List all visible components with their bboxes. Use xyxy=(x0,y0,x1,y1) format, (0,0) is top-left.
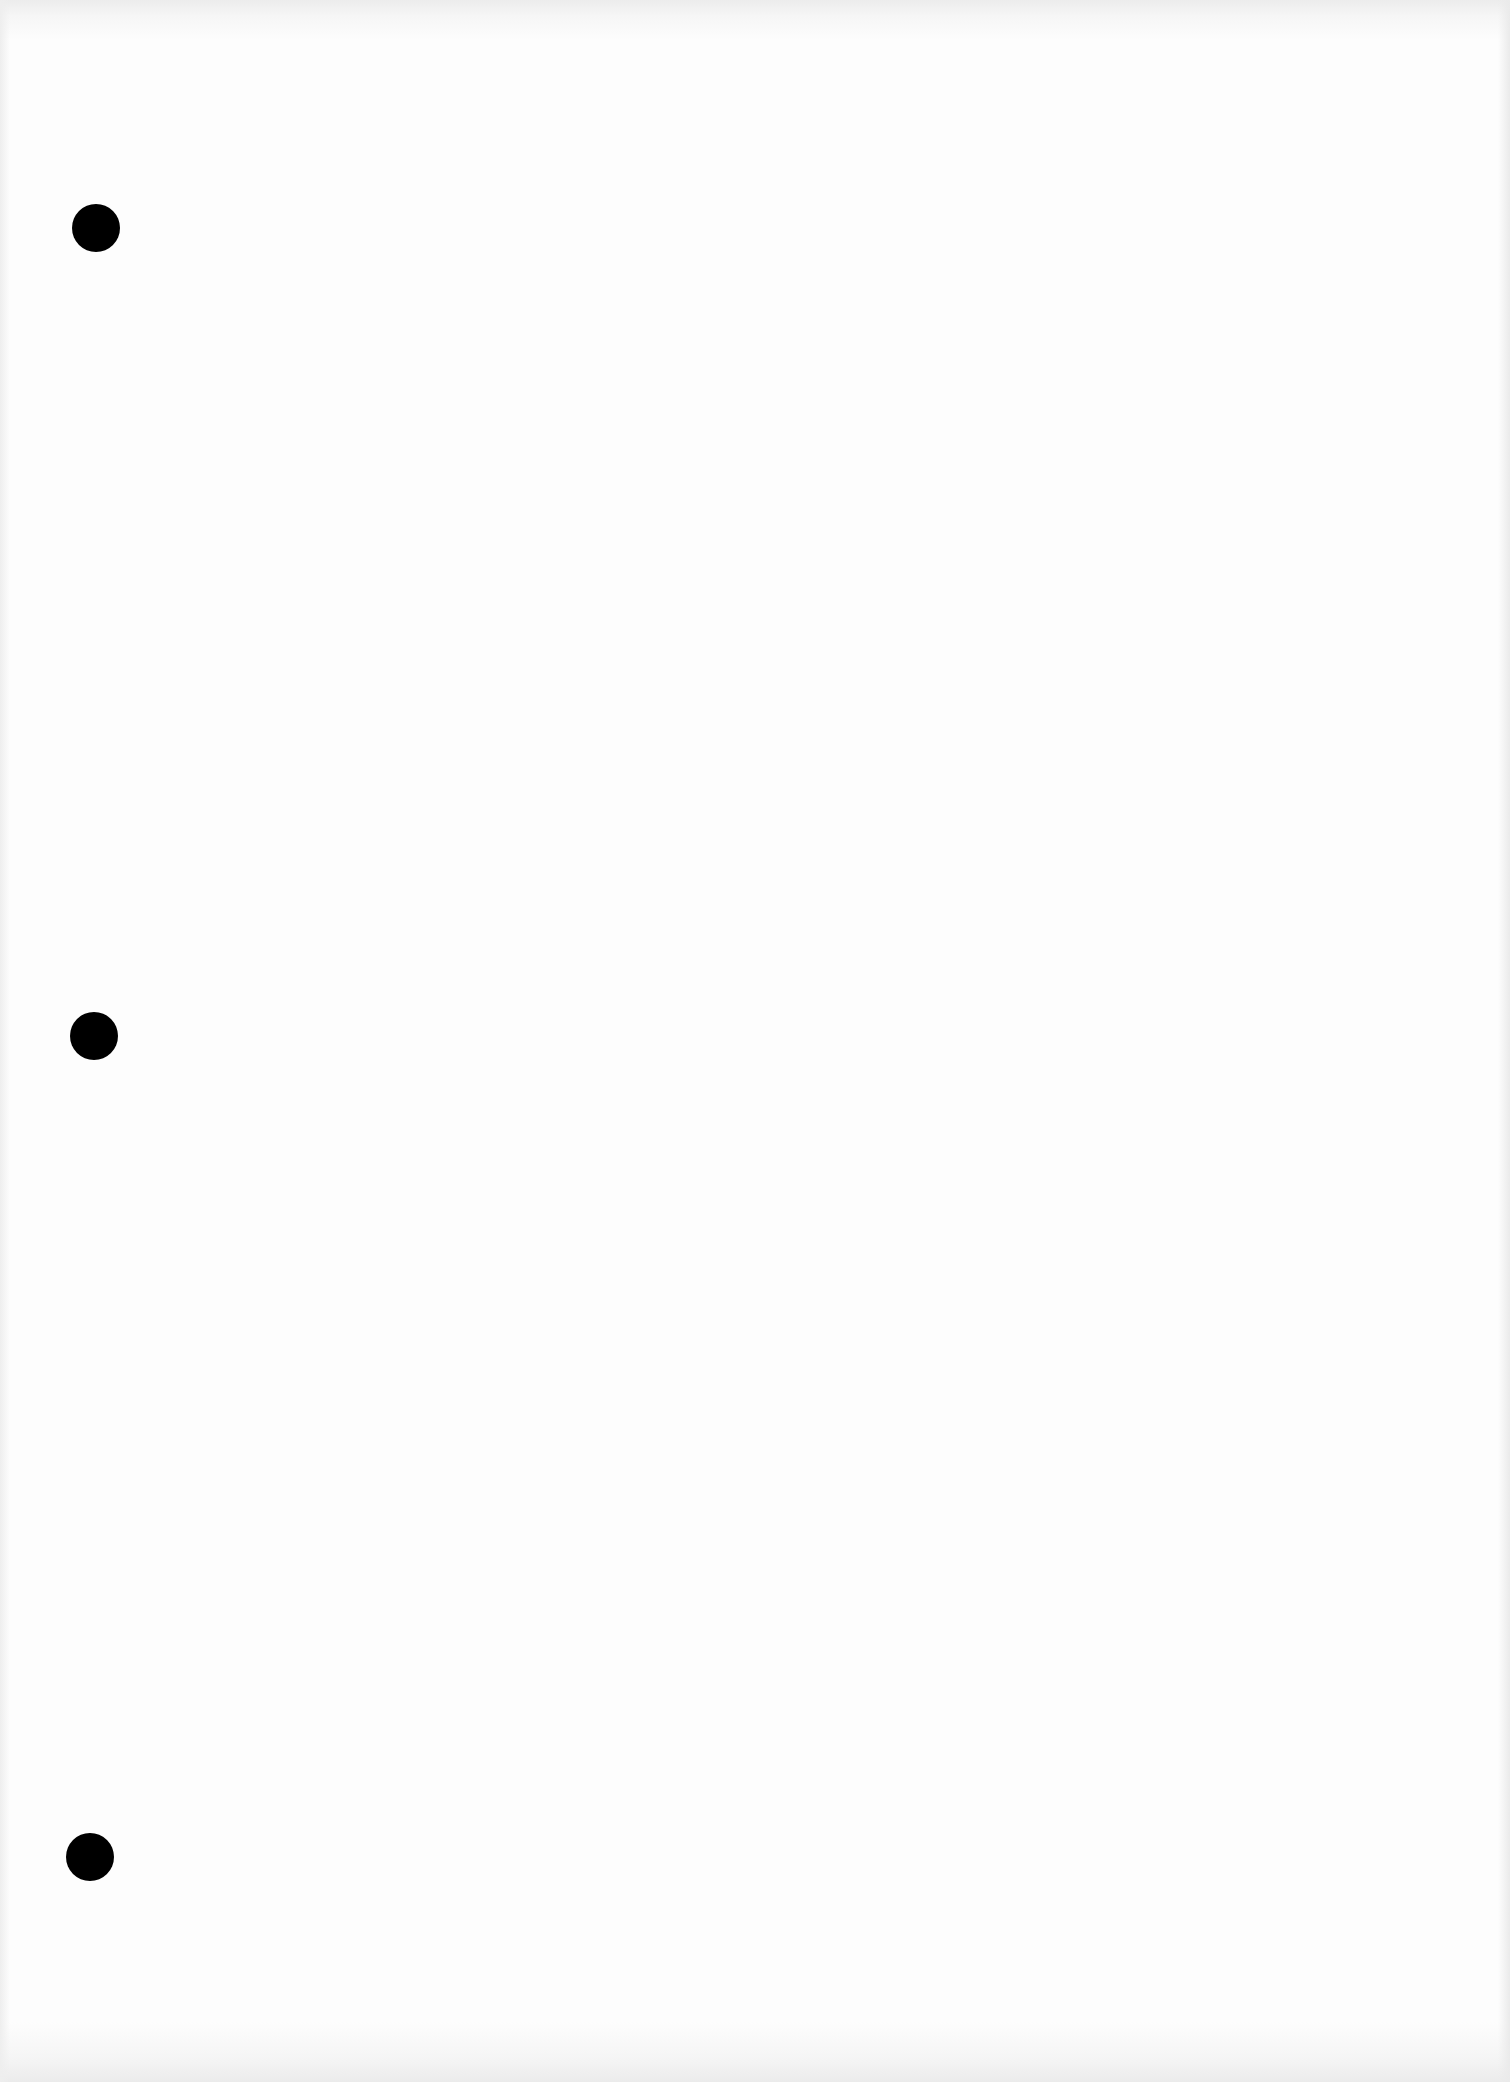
scan-edge-left xyxy=(0,0,10,2082)
punch-hole-bottom xyxy=(66,1833,114,1881)
scan-edge-bottom xyxy=(0,2022,1510,2082)
punch-hole-top xyxy=(72,204,120,252)
scan-edge-right xyxy=(1498,0,1510,2082)
scan-edge-top xyxy=(0,0,1510,40)
scanned-page xyxy=(0,0,1510,2082)
punch-hole-middle xyxy=(70,1012,118,1060)
